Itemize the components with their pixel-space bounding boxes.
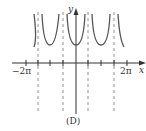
y-axis-arrow-icon <box>74 8 79 15</box>
x-tick-label-2pi: 2π <box>120 66 132 76</box>
graph-panel: y x −2π 2π (D) <box>0 0 146 131</box>
x-tick-label-neg-2pi: −2π <box>12 66 31 76</box>
x-axis-label: x <box>139 65 144 75</box>
curve-branches <box>34 14 124 47</box>
y-axis-label: y <box>68 4 73 14</box>
figure-label: (D) <box>66 116 80 126</box>
